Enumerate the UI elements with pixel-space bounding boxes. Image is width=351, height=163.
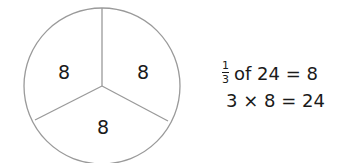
denominator: 3: [222, 74, 229, 85]
part-label-bottom: 8: [97, 116, 109, 138]
divider-right: [102, 86, 168, 121]
fraction-one-third: 1 3: [222, 60, 229, 85]
equation-rest: of 24 = 8: [234, 63, 318, 84]
part-label-left: 8: [58, 61, 70, 83]
part-label-right: 8: [137, 61, 149, 83]
equation-fraction: 1 3 of 24 = 8: [222, 62, 318, 87]
divider-left: [35, 86, 102, 120]
numerator: 1: [222, 60, 229, 71]
equation-multiplication: 3 × 8 = 24: [226, 92, 325, 110]
